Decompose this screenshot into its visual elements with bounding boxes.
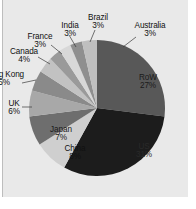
pie-label-india-percent: 3% (56, 30, 84, 38)
leader-line-hong-kong (22, 80, 36, 83)
pie-label-japan: Japan 7% (42, 126, 80, 143)
pie-label-canada: Canada 4% (4, 48, 44, 65)
pie-label-canada-percent: 4% (4, 56, 44, 64)
pie-label-france: France 3% (21, 33, 59, 50)
pie-label-france-percent: 3% (21, 41, 59, 49)
pie-label-japan-percent: 7% (42, 134, 80, 142)
pie-label-brazil-percent: 3% (83, 22, 113, 30)
pie-label-china: China 8% (55, 145, 95, 162)
pie-label-us: US 31% (126, 143, 162, 160)
pie-label-uk-percent: 6% (2, 108, 26, 116)
pie-label-hong-kong: Hong Kong 5% (0, 71, 24, 88)
pie-label-australia-percent: 3% (129, 30, 171, 38)
pie-label-row-percent: 27% (128, 82, 168, 90)
pie-label-hong-kong-percent: 5% (0, 79, 24, 87)
pie-label-china-percent: 8% (55, 153, 95, 161)
pie-label-uk: UK 6% (2, 100, 26, 117)
pie-chart-figure: RoW 27% US 31% China 8% Japan 7% UK 6% H… (0, 0, 196, 209)
pie-label-row: RoW 27% (128, 74, 168, 91)
pie-label-us-percent: 31% (126, 151, 162, 159)
pie-label-india: India 3% (56, 22, 84, 39)
pie-label-australia: Australia 3% (129, 22, 171, 39)
pie-label-brazil: Brazil 3% (83, 14, 113, 31)
